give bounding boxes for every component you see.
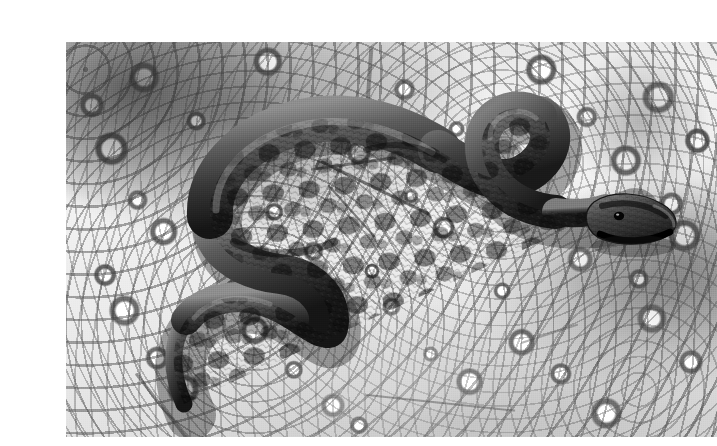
eye (614, 212, 624, 220)
photograph: Black and white photograph of a banded s… (66, 42, 717, 437)
snake-illustration (66, 42, 717, 437)
head-cast-shadow (592, 235, 676, 257)
eye-highlight (616, 213, 619, 215)
